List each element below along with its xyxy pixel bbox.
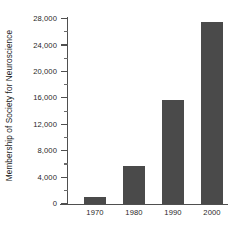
bar-1980 xyxy=(123,166,145,204)
y-tick-major xyxy=(61,44,68,45)
y-tick-major xyxy=(61,97,68,98)
y-tick-label: 28,000 xyxy=(33,14,57,23)
y-tick-label: 0 xyxy=(53,199,57,208)
bar-2000 xyxy=(201,22,223,204)
y-tick-label: 20,000 xyxy=(33,67,57,76)
y-tick-major xyxy=(61,18,68,19)
y-tick-label: 4,000 xyxy=(37,173,57,182)
x-tick-label-2000: 2000 xyxy=(196,208,228,217)
y-tick-label: 16,000 xyxy=(33,93,57,102)
bar-1990 xyxy=(162,100,184,204)
y-tick-label: 8,000 xyxy=(37,146,57,155)
y-tick-major xyxy=(61,71,68,72)
x-tick-label-1970: 1970 xyxy=(79,208,111,217)
x-tick-label-1980: 1980 xyxy=(118,208,150,217)
y-tick-label: 24,000 xyxy=(33,41,57,50)
y-tick-major xyxy=(61,150,68,151)
bar-chart-figure: Membership of Society for Neuroscience 0… xyxy=(0,0,233,238)
y-tick-major xyxy=(61,124,68,125)
y-tick-label: 12,000 xyxy=(33,120,57,129)
y-tick-major xyxy=(61,177,68,178)
y-axis-title: Membership of Society for Neuroscience xyxy=(0,0,20,210)
x-tick-label-1990: 1990 xyxy=(157,208,189,217)
y-tick-major xyxy=(61,203,68,204)
bar-1970 xyxy=(84,197,106,204)
bars-layer xyxy=(68,10,228,204)
y-axis-title-text: Membership of Society for Neuroscience xyxy=(6,29,15,180)
